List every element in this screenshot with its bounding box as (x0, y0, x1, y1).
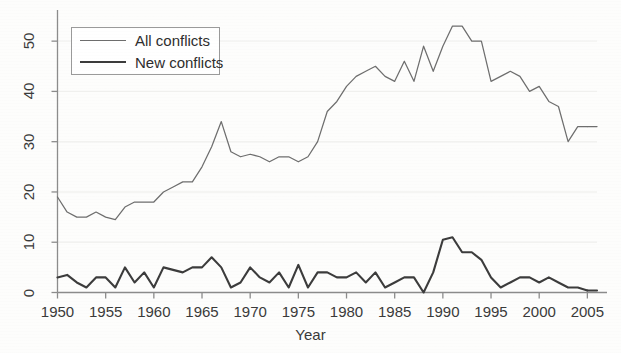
x-tick-label-1985: 1985 (373, 303, 417, 320)
x-tick-label-1975: 1975 (276, 303, 320, 320)
x-tick-label-1950: 1950 (36, 303, 80, 320)
x-tick-label-1995: 1995 (469, 303, 513, 320)
x-tick-label-1960: 1960 (132, 303, 176, 320)
x-tick-label-1980: 1980 (325, 303, 369, 320)
x-tick-label-1970: 1970 (228, 303, 272, 320)
x-tick-label-2005: 2005 (565, 303, 609, 320)
x-axis-title: Year (0, 326, 621, 343)
chart-legend: All conflicts New conflicts (71, 27, 220, 75)
x-tick-label-2000: 2000 (517, 303, 561, 320)
y-tick-label-10: 10 (20, 225, 38, 259)
axis-tick-marks (52, 41, 588, 298)
legend-item-all-conflicts: All conflicts (80, 29, 210, 51)
y-tick-label-50: 50 (20, 24, 38, 58)
x-tick-label-1965: 1965 (180, 303, 224, 320)
x-tick-label-1990: 1990 (421, 303, 465, 320)
legend-line-swatch-all-conflicts (80, 34, 126, 46)
legend-label-new-conflicts: New conflicts (135, 54, 223, 71)
y-tick-label-30: 30 (20, 125, 38, 159)
legend-item-new-conflicts: New conflicts (80, 51, 223, 73)
legend-label-all-conflicts: All conflicts (135, 32, 210, 49)
y-tick-label-40: 40 (20, 74, 38, 108)
legend-line-swatch-new-conflicts (80, 56, 126, 68)
y-tick-label-20: 20 (20, 175, 38, 209)
chart-figure: 01020304050 1950195519601965197019751980… (0, 0, 621, 353)
x-tick-label-1955: 1955 (84, 303, 128, 320)
